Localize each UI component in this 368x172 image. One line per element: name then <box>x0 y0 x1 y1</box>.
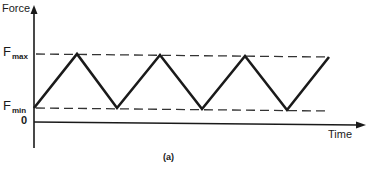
x-axis-label: Time <box>328 128 352 140</box>
y-axis-label: Force <box>2 2 30 14</box>
y-axis <box>31 5 38 148</box>
zero-label: 0 <box>21 114 27 126</box>
force-time-diagram <box>0 0 368 172</box>
fmin-label: Fmin <box>3 98 26 115</box>
y-axis-arrow-icon <box>31 5 38 14</box>
figure-caption: (a) <box>163 152 174 162</box>
x-axis-arrow-icon <box>356 122 366 129</box>
x-axis <box>34 122 366 129</box>
fmax-label: Fmax <box>3 44 28 61</box>
force-waveform <box>34 54 329 110</box>
